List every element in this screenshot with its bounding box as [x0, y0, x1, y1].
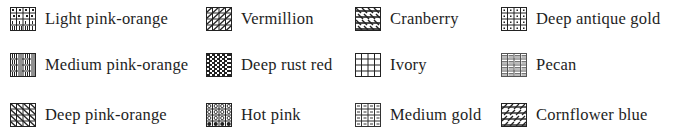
- legend-item-cornflower-blue: Cornflower blue: [501, 100, 648, 130]
- legend-label: Deep antique gold: [536, 11, 660, 28]
- legend-label: Pecan: [536, 57, 576, 74]
- legend-label: Light pink-orange: [45, 11, 168, 28]
- brick-dots-pattern-icon: [10, 7, 36, 31]
- dense-checker-pattern-icon: [206, 53, 232, 77]
- circles-grid-pattern-icon: [206, 103, 232, 127]
- legend-label: Medium pink-orange: [45, 57, 188, 74]
- dense-diagonal-checker-pattern-icon: [355, 7, 381, 31]
- legend-item-hot-pink: Hot pink: [206, 100, 301, 130]
- diagonal-checker-pattern-icon: [501, 103, 527, 127]
- legend-label: Cranberry: [390, 11, 459, 28]
- legend-label: Deep pink-orange: [45, 107, 167, 124]
- plain-grid-pattern-icon: [355, 53, 381, 77]
- color-pattern-legend: Light pink-orange Vermillion: [0, 0, 678, 140]
- legend-label: Cornflower blue: [536, 107, 648, 124]
- legend-label: Deep rust red: [241, 57, 332, 74]
- vertical-bars-grid-pattern-icon: [10, 53, 36, 77]
- legend-label: Ivory: [390, 57, 427, 74]
- legend-item-medium-pink-orange: Medium pink-orange: [10, 50, 188, 80]
- legend-item-deep-antique-gold: Deep antique gold: [501, 4, 660, 34]
- legend-label: Hot pink: [241, 107, 301, 124]
- legend-item-deep-pink-orange: Deep pink-orange: [10, 100, 167, 130]
- dotted-grid-pattern-icon: [501, 7, 527, 31]
- diagonal-grid-pattern-icon: [206, 7, 232, 31]
- dash-grid-pattern-icon: [355, 103, 381, 127]
- legend-item-vermillion: Vermillion: [206, 4, 314, 34]
- legend-item-ivory: Ivory: [355, 50, 427, 80]
- horizontal-dash-grid-pattern-icon: [501, 53, 527, 77]
- legend-item-light-pink-orange: Light pink-orange: [10, 4, 168, 34]
- back-diagonal-grid-pattern-icon: [10, 103, 36, 127]
- legend-item-deep-rust-red: Deep rust red: [206, 50, 332, 80]
- legend-item-medium-gold: Medium gold: [355, 100, 482, 130]
- legend-item-pecan: Pecan: [501, 50, 576, 80]
- legend-label: Vermillion: [241, 11, 314, 28]
- legend-item-cranberry: Cranberry: [355, 4, 459, 34]
- legend-label: Medium gold: [390, 107, 482, 124]
